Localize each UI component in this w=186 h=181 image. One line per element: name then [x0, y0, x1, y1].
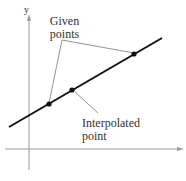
given-points-label: Given points [42, 15, 87, 41]
linear-function-line [9, 38, 162, 127]
interpolation-diagram: y Given points Interpolated point [0, 0, 186, 181]
leader-lines [49, 40, 134, 113]
given-point-2 [131, 51, 136, 56]
x-axis-arrow-icon [177, 147, 184, 151]
axes [5, 14, 184, 170]
interpolated-point [69, 87, 74, 92]
interpolated-point-label: Interpolated point [82, 117, 140, 143]
diagram-graphics [0, 0, 186, 181]
given-point-1 [46, 101, 51, 106]
y-axis-label: y [24, 3, 29, 16]
